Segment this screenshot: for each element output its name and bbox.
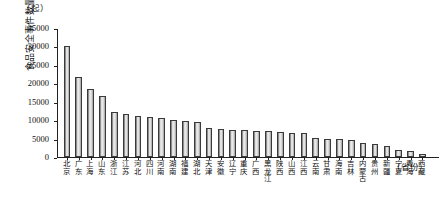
bar-slot xyxy=(158,29,165,157)
bar xyxy=(194,122,201,157)
x-axis-category-label: 江西 xyxy=(300,160,311,175)
bar xyxy=(395,150,402,157)
y-axis-tick: 20000 xyxy=(54,84,57,85)
bar xyxy=(289,133,296,158)
x-axis-category-label: 吉林 xyxy=(347,160,358,175)
bar xyxy=(241,130,248,157)
bar-slot xyxy=(194,29,201,157)
bar-slot xyxy=(241,29,248,157)
bar-slot xyxy=(253,29,260,157)
bar-slot xyxy=(372,29,379,157)
y-axis-tick-label: 10000 xyxy=(28,115,49,126)
bar xyxy=(147,117,154,157)
bar-slot xyxy=(206,29,213,157)
bar-slot xyxy=(170,29,177,157)
bar-slot xyxy=(301,29,308,157)
y-axis-tick: 0 xyxy=(54,158,57,159)
x-axis-category-label: 四川 xyxy=(146,160,157,175)
x-axis-category-label: 广东 xyxy=(75,160,86,175)
bar xyxy=(277,132,284,157)
y-axis-tick-label: 15000 xyxy=(28,97,49,108)
bar-slot xyxy=(147,29,154,157)
bar xyxy=(253,131,260,157)
bar xyxy=(75,77,82,157)
x-axis-category-label: 安徽 xyxy=(217,160,228,175)
y-axis-tick-label: 5000 xyxy=(32,134,49,145)
bar xyxy=(265,131,272,157)
x-axis-category-label: 河南 xyxy=(157,160,168,175)
x-axis-category-label: 内蒙古 xyxy=(359,160,370,183)
x-axis-category-label: 上海 xyxy=(86,160,97,175)
x-axis-category-label: 重庆 xyxy=(240,160,251,175)
food-safety-incident-bar-chart: （起） 食品安全事件数量 350003000025000200001500010… xyxy=(0,0,443,210)
x-axis-category-label: 湖北 xyxy=(193,160,204,175)
bar xyxy=(206,128,213,157)
bar-slot xyxy=(229,29,236,157)
bar-slot xyxy=(384,29,391,157)
x-axis-category-label: 广西 xyxy=(252,160,263,175)
x-axis-category-label: 浙江 xyxy=(110,160,121,175)
bar-slot xyxy=(99,29,106,157)
y-axis-tick: 25000 xyxy=(54,66,57,67)
bar xyxy=(360,143,367,157)
bar xyxy=(111,112,118,157)
x-axis-category-label: 河北 xyxy=(134,160,145,175)
bar-slot xyxy=(277,29,284,157)
bar-slot xyxy=(289,29,296,157)
bar xyxy=(384,146,391,157)
bar xyxy=(229,130,236,157)
bar-slot xyxy=(218,29,225,157)
y-axis-tick-label: 25000 xyxy=(28,60,49,71)
x-axis-category-label: 江苏 xyxy=(122,160,133,175)
y-axis-tick-label: 30000 xyxy=(28,41,49,52)
bar-slot xyxy=(111,29,118,157)
bar-slot xyxy=(123,29,130,157)
plot-area: 35000300002500020000150001000050000 xyxy=(57,29,439,158)
bar-slot xyxy=(87,29,94,157)
bar-slot xyxy=(182,29,189,157)
bar xyxy=(123,114,130,157)
y-axis-tick-label: 20000 xyxy=(28,78,49,89)
bar xyxy=(336,139,343,157)
x-axis-category-label: 山东 xyxy=(98,160,109,175)
x-axis-category-label: 甘肃 xyxy=(323,160,334,175)
bar-slot xyxy=(360,29,367,157)
bar-series xyxy=(58,29,439,157)
x-axis-category-label: 天津 xyxy=(205,160,216,175)
y-axis-tick: 30000 xyxy=(54,47,57,48)
x-axis-category-label: 贵州 xyxy=(371,160,382,175)
y-axis-tick: 5000 xyxy=(54,140,57,141)
bar xyxy=(312,138,319,157)
bar xyxy=(64,46,71,157)
bar xyxy=(158,118,165,157)
bar xyxy=(372,144,379,157)
x-axis-category-label: 陕西 xyxy=(276,160,287,175)
bar-slot xyxy=(135,29,142,157)
bar xyxy=(99,96,106,157)
y-axis-tick-label: 0 xyxy=(45,152,49,163)
bar-slot xyxy=(395,29,402,157)
x-axis-category-label: 辽宁 xyxy=(229,160,240,175)
bar xyxy=(135,116,142,157)
x-axis-category-label: 北京 xyxy=(63,160,74,175)
y-axis-tick: 10000 xyxy=(54,121,57,122)
x-axis-category-label: 福建 xyxy=(181,160,192,175)
bar xyxy=(182,121,189,157)
bar xyxy=(324,139,331,157)
y-axis-tick: 35000 xyxy=(54,29,57,30)
x-axis-category-label: 海南 xyxy=(335,160,346,175)
bar-slot xyxy=(419,29,426,157)
bar-slot xyxy=(312,29,319,157)
bar-slot xyxy=(407,29,414,157)
bar-slot xyxy=(265,29,272,157)
bar xyxy=(301,133,308,157)
bar-slot xyxy=(324,29,331,157)
y-axis-tick: 15000 xyxy=(54,103,57,104)
y-axis-tick-label: 35000 xyxy=(28,23,49,34)
bar-slot xyxy=(348,29,355,157)
x-axis-category-label: 黑龙江 xyxy=(264,160,275,183)
bar xyxy=(218,129,225,157)
x-axis-title: （省份） xyxy=(392,162,428,172)
bar xyxy=(348,140,355,157)
x-axis-category-label: 云南 xyxy=(312,160,323,175)
